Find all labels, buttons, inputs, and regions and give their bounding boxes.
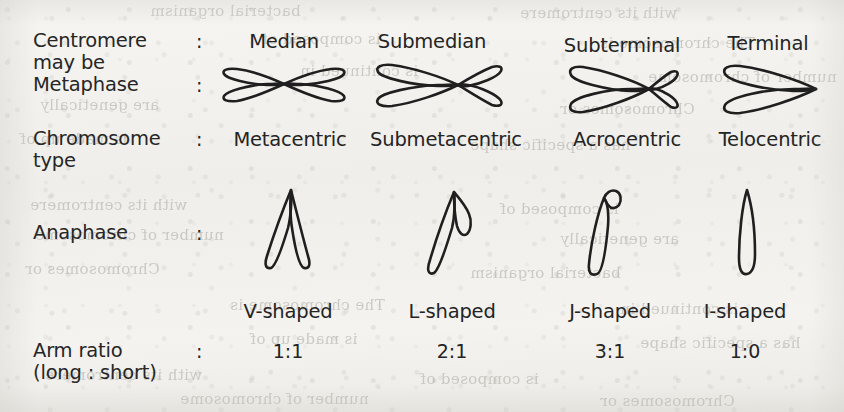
metacentric-chromosome-icon <box>215 58 353 110</box>
row-label-centromere-line2: may be <box>33 52 105 75</box>
centromere-position-submedian: Submedian <box>378 30 486 53</box>
chromosome-type-acrocentric: Acrocentric <box>573 128 681 151</box>
telocentric-chromosome-icon <box>718 62 828 116</box>
centromere-position-median: Median <box>249 30 319 53</box>
centromere-position-subterminal: Subterminal <box>564 34 680 57</box>
bleed-through-text: is composed of <box>420 370 539 388</box>
row-colon-centromere: : <box>196 30 202 52</box>
bleed-through-text: Chromosomes or <box>600 392 735 410</box>
anaphase-shape-j: J-shaped <box>569 300 651 323</box>
row-label-arm-ratio-line1: Arm ratio <box>33 340 122 363</box>
arm-ratio-metacentric: 1:1 <box>273 340 304 362</box>
bleed-through-text: are genetically <box>40 96 159 114</box>
row-colon-chromosome-type: : <box>196 128 202 150</box>
chromosome-type-telocentric: Telocentric <box>719 128 822 151</box>
anaphase-shape-i: I-shaped <box>704 300 786 323</box>
chromosome-type-metacentric: Metacentric <box>233 128 346 151</box>
centromere-position-terminal: Terminal <box>728 32 809 55</box>
arm-ratio-submetacentric: 2:1 <box>437 340 468 362</box>
bleed-through-text: Chromosomes or <box>25 260 160 278</box>
row-label-chromosome-type-line1: Chromosome <box>33 128 161 151</box>
submetacentric-chromosome-icon <box>368 58 510 112</box>
row-colon-metaphase: : <box>196 74 202 96</box>
arm-ratio-telocentric: 1:0 <box>730 340 761 362</box>
scanned-figure-page: bacterial organism with its centromere i… <box>0 0 844 412</box>
bleed-through-text: number of chromosome <box>180 390 369 408</box>
bleed-through-text: with its centromere <box>520 4 677 22</box>
bleed-through-text: with its centromere <box>30 196 187 214</box>
v-shaped-chromosome-icon <box>258 186 324 272</box>
row-label-centromere-line1: Centromere <box>33 30 147 53</box>
bleed-through-text: bacterial organism <box>150 2 301 20</box>
bleed-through-text: is made up of <box>250 330 358 348</box>
i-shaped-chromosome-icon <box>730 186 764 278</box>
row-label-chromosome-type-line2: type <box>33 150 76 173</box>
row-label-metaphase: Metaphase <box>33 74 138 97</box>
chromosome-type-submetacentric: Submetacentric <box>370 128 522 151</box>
row-label-anaphase: Anaphase <box>33 222 128 245</box>
j-shaped-chromosome-icon <box>578 186 628 278</box>
row-colon-arm-ratio: : <box>196 340 202 362</box>
row-label-arm-ratio-line2: (long : short) <box>33 362 157 385</box>
anaphase-shape-v: V-shaped <box>244 300 333 323</box>
arm-ratio-acrocentric: 3:1 <box>595 340 626 362</box>
anaphase-shape-l: L-shaped <box>408 300 495 323</box>
l-shaped-chromosome-icon <box>420 186 484 276</box>
bleed-through-text: has a specific shape <box>640 334 800 352</box>
row-colon-anaphase: : <box>196 222 202 244</box>
acrocentric-chromosome-icon <box>565 62 693 118</box>
